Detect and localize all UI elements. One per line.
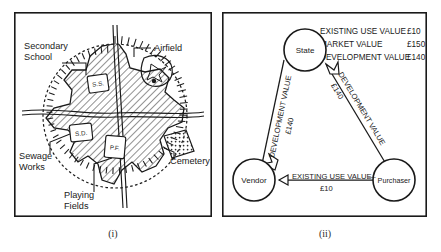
site-marker-sd-label: S.D.: [75, 129, 88, 137]
legend-value-2: £140: [407, 53, 426, 62]
caption-figure-i: (i): [93, 228, 133, 239]
site-marker-pf-label: P.F.: [110, 144, 121, 152]
node-vendor-label: Vendor: [241, 176, 267, 185]
label-cemetery: Cemetery: [170, 156, 210, 166]
site-marker-playing-field: P.F.: [104, 135, 126, 159]
flow-label-purchaser-vendor-amount: £10: [320, 184, 333, 193]
site-marker-secondary-school: S.S.: [87, 74, 109, 94]
legend-label-0: EXISTING USE VALUE: [320, 27, 406, 36]
legend: EXISTING USE VALUE £10 MARKET VALUE £150…: [320, 27, 426, 62]
label-playing-fields-line2: Fields: [64, 201, 89, 211]
node-vendor[interactable]: Vendor: [233, 159, 275, 201]
figure-root: S.S. S.D. P.F. Secondary Sch: [0, 0, 441, 252]
label-secondary-school-line2: School: [24, 52, 52, 62]
map-svg: S.S. S.D. P.F. Secondary Sch: [14, 12, 212, 217]
map-panel: S.S. S.D. P.F. Secondary Sch: [14, 12, 212, 217]
label-airfield: Airfield: [154, 43, 182, 53]
label-sewage-works-line1: Sewage: [19, 151, 52, 161]
legend-label-2: DEVELOPMENT VALUE: [320, 53, 411, 62]
node-state-label: State: [296, 46, 315, 55]
label-playing-fields-line1: Playing: [64, 190, 94, 200]
site-marker-sewage-disposal: S.D.: [69, 123, 93, 142]
legend-value-1: £150: [407, 40, 426, 49]
legend-value-0: £10: [407, 27, 421, 36]
node-state[interactable]: State: [284, 29, 326, 71]
caption-figure-ii: (ii): [305, 228, 345, 239]
diagram-svg: EXISTING USE VALUE £10 MARKET VALUE £150…: [222, 12, 427, 217]
diagram-panel: EXISTING USE VALUE £10 MARKET VALUE £150…: [222, 12, 427, 217]
flow-label-purchaser-vendor-dash: —: [368, 172, 376, 181]
node-purchaser[interactable]: Purchaser: [373, 159, 415, 201]
node-purchaser-label: Purchaser: [378, 176, 411, 185]
label-secondary-school-line1: Secondary: [24, 41, 68, 51]
legend-label-1: MARKET VALUE: [320, 40, 383, 49]
flow-label-purchaser-vendor-text: EXISTING USE VALUE: [292, 172, 372, 181]
label-sewage-works-line2: Works: [19, 162, 45, 172]
